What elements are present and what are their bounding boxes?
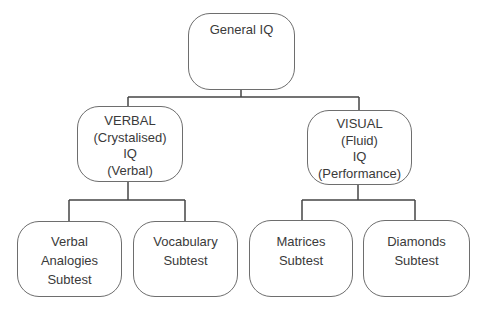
node-verbal-iq: VERBAL (Crystalised) IQ (Verbal) — [77, 106, 183, 182]
node-label: VISUAL — [308, 116, 411, 133]
node-verbal-analogies-subtest: Verbal Analogies Subtest — [17, 221, 122, 297]
node-label: (Verbal) — [78, 163, 182, 180]
node-label: (Crystalised) — [78, 130, 182, 147]
node-matrices-subtest: Matrices Subtest — [249, 220, 353, 297]
node-label: IQ — [78, 146, 182, 163]
node-label: (Performance) — [308, 166, 411, 183]
node-label: Diamonds — [364, 232, 469, 251]
node-label: IQ — [308, 149, 411, 166]
node-label: Subtest — [250, 251, 352, 270]
node-label: (Fluid) — [308, 133, 411, 150]
node-label: General IQ — [189, 22, 294, 39]
node-vocabulary-subtest: Vocabulary Subtest — [133, 221, 238, 297]
node-visual-iq: VISUAL (Fluid) IQ (Performance) — [307, 110, 412, 185]
node-label: Subtest — [134, 251, 237, 270]
node-label: Verbal — [18, 232, 121, 251]
node-label: Matrices — [250, 232, 352, 251]
node-general-iq: General IQ — [188, 13, 295, 90]
node-label: Analogies — [18, 251, 121, 270]
node-label: Subtest — [18, 270, 121, 289]
node-label: VERBAL — [78, 113, 182, 130]
node-label: Subtest — [364, 251, 469, 270]
node-label: Vocabulary — [134, 232, 237, 251]
node-diamonds-subtest: Diamonds Subtest — [363, 220, 470, 297]
